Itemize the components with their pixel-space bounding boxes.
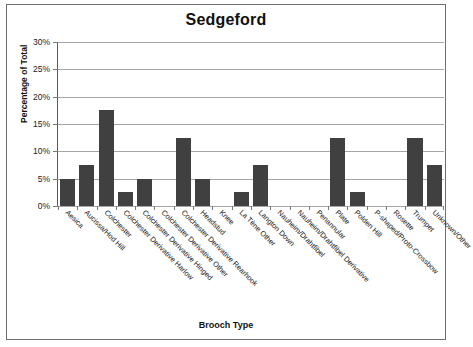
bar-slot (232, 42, 251, 206)
bar (427, 165, 442, 206)
y-axis-tick-label: 30% (33, 37, 50, 47)
bar-slot (97, 42, 116, 206)
y-axis-tick-label: 25% (33, 64, 50, 74)
bar-slot (386, 42, 405, 206)
bar-slot (193, 42, 212, 206)
y-axis-tick-label: 10% (33, 146, 50, 156)
bar (234, 192, 249, 206)
bar (330, 138, 345, 206)
bar (407, 138, 422, 206)
bar-slot (135, 42, 154, 206)
chart-title: Sedgeford (7, 11, 445, 29)
bar (118, 192, 133, 206)
bar-slot (77, 42, 96, 206)
bar-slot (251, 42, 270, 206)
bar-slot (154, 42, 173, 206)
bar-slot (174, 42, 193, 206)
x-axis-tick-label: Unknown/Other (430, 208, 473, 251)
bar (137, 179, 152, 206)
bar (99, 110, 114, 206)
bar (60, 179, 75, 206)
bar-slot (212, 42, 231, 206)
bar-slot (425, 42, 444, 206)
bar-slot (367, 42, 386, 206)
bar-slot (116, 42, 135, 206)
bar-slot (58, 42, 77, 206)
bar-slot (405, 42, 424, 206)
bar (195, 179, 210, 206)
y-axis-title: Percentage of Total (19, 45, 29, 123)
plot-area: 30%25%20%15%10%5%0% (58, 42, 444, 206)
bar (176, 138, 191, 206)
y-axis-tick-label: 5% (38, 174, 50, 184)
bar (253, 165, 268, 206)
y-axis-tick-label: 15% (33, 119, 50, 129)
x-axis-tick-labels: AesicaAucissa/Hod HillColchesterColchest… (58, 208, 444, 308)
y-axis-tick-label: 0% (38, 201, 50, 211)
chart-container: Sedgeford Percentage of Total 30%25%20%1… (6, 4, 446, 340)
bar-slot (270, 42, 289, 206)
bar-series (58, 42, 444, 206)
bar (79, 165, 94, 206)
bar-slot (347, 42, 366, 206)
x-axis-title: Brooch Type (7, 320, 445, 330)
bar-slot (309, 42, 328, 206)
y-axis-tick-label: 20% (33, 92, 50, 102)
bar-slot (290, 42, 309, 206)
x-axis-tick-label: Aesica (64, 208, 86, 230)
bar-slot (328, 42, 347, 206)
bar (350, 192, 365, 206)
